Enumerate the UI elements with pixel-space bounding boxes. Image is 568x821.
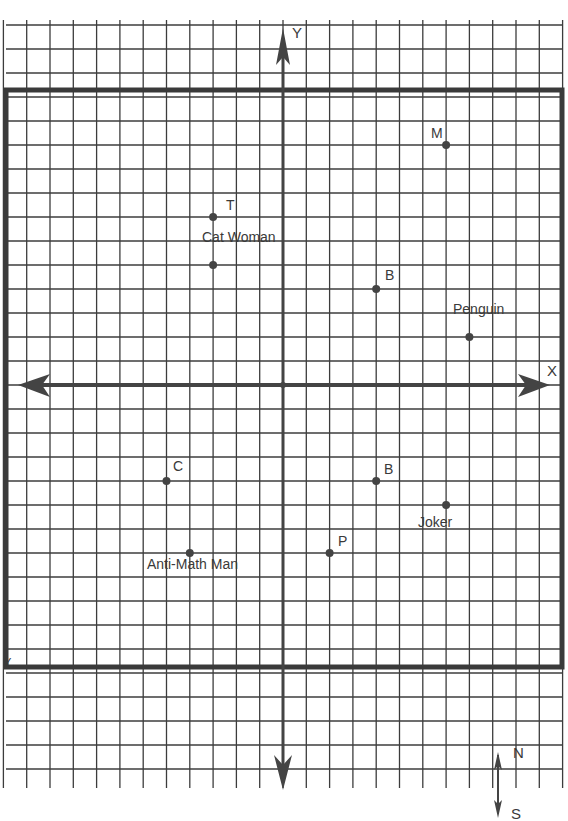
point-label-b-bottom: B (384, 462, 393, 476)
compass-south-label: S (511, 806, 521, 821)
point-label-m: M (431, 126, 443, 140)
origin-dot (280, 382, 286, 388)
point-label-p: P (338, 534, 347, 548)
point-dot (372, 285, 380, 293)
point-dot (326, 549, 334, 557)
point-label-b-top: B (385, 268, 394, 282)
point-dot (442, 501, 450, 509)
point-label-c: C (173, 459, 183, 473)
point-dot (465, 333, 473, 341)
x-axis-label: X (547, 363, 557, 378)
point-label-penguin: Penguin (453, 302, 504, 316)
plotted-points (163, 141, 474, 557)
corner-label: Y (4, 657, 11, 668)
point-label-t: T (226, 198, 235, 212)
point-label-cat-woman: Cat Woman (202, 230, 276, 244)
point-dot (209, 261, 217, 269)
point-label-anti-math-man: Anti-Math Man (147, 557, 238, 571)
point-dot (442, 141, 450, 149)
point-dot (372, 477, 380, 485)
coordinate-grid (0, 0, 568, 821)
compass-north-label: N (513, 745, 524, 760)
y-axis-label: Y (292, 25, 302, 40)
point-dot (163, 477, 171, 485)
point-dot (209, 213, 217, 221)
point-label-joker: Joker (418, 515, 452, 529)
